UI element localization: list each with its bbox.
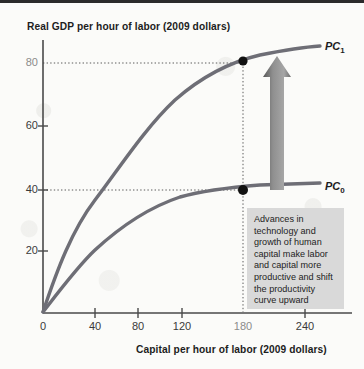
x-tick-label-80: 80 [121,320,155,332]
x-tick-label-120: 120 [165,320,199,332]
x-tick-label-240: 240 [288,320,322,332]
curve-label-pc1-text: PC [325,40,340,52]
annotation-callout-box: Advances in technology and growth of hum… [247,208,344,309]
x-tick-label-0: 0 [26,320,60,332]
y-tick-label-60: 60 [12,119,38,131]
curve-label-pc1: PC1 [325,40,345,55]
shift-arrow [263,56,291,190]
curve-label-pc0-sub: 0 [340,186,344,195]
curve-label-pc1-sub: 1 [340,46,344,55]
y-tick-label-80: 80 [12,56,38,68]
curve-label-pc0-text: PC [325,180,340,192]
y-tick-label-40: 40 [12,183,38,195]
curve-label-pc0: PC0 [325,180,345,195]
x-tick-label-180: 180 [226,320,260,332]
y-tick-label-20: 20 [12,244,38,256]
marker-pc1-180 [238,56,247,65]
figure-canvas: Real GDP per hour of labor (2009 dollars… [0,0,364,369]
plot-area [0,0,364,369]
marker-pc0-180 [238,185,248,195]
x-tick-label-40: 40 [78,320,112,332]
